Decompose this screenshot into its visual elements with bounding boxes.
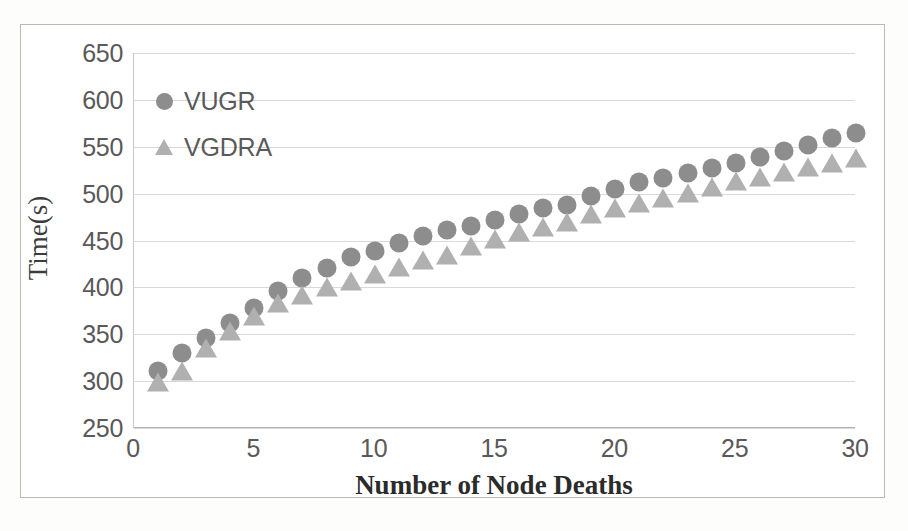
- data-point-vgdra: [195, 339, 217, 358]
- data-point-vgdra: [340, 271, 362, 290]
- gridline: [134, 334, 855, 335]
- data-point-vugr: [486, 210, 505, 229]
- x-axis-tick-labels: 051015202530: [133, 428, 855, 468]
- data-point-vugr: [847, 123, 866, 142]
- x-axis-title: Number of Node Deaths: [355, 470, 633, 501]
- data-point-vugr: [510, 205, 529, 224]
- data-point-vugr: [437, 221, 456, 240]
- x-axis-tick-label: 25: [721, 434, 748, 463]
- data-point-vugr: [630, 173, 649, 192]
- data-point-vugr: [317, 258, 336, 277]
- y-axis-tick-label: 400: [59, 273, 123, 302]
- data-point-vgdra: [677, 183, 699, 202]
- data-point-vugr: [654, 168, 673, 187]
- gridline: [134, 194, 855, 195]
- data-point-vgdra: [628, 193, 650, 212]
- data-point-vugr: [365, 241, 384, 260]
- y-axis-tick-label: 350: [59, 320, 123, 349]
- scatter-chart: 250300350400450500550600650 051015202530…: [0, 0, 908, 531]
- data-point-vgdra: [171, 361, 193, 380]
- y-axis-tick-label: 500: [59, 179, 123, 208]
- y-axis-tick-label: 550: [59, 132, 123, 161]
- gridline: [134, 53, 855, 54]
- y-axis-title: Time(s): [23, 196, 54, 281]
- data-point-vgdra: [701, 178, 723, 197]
- data-point-vgdra: [508, 223, 530, 242]
- x-axis-tick-label: 10: [360, 434, 387, 463]
- data-point-vugr: [750, 148, 769, 167]
- data-point-vugr: [822, 129, 841, 148]
- data-point-vugr: [582, 186, 601, 205]
- data-point-vugr: [798, 135, 817, 154]
- data-point-vgdra: [388, 257, 410, 276]
- gridline: [134, 381, 855, 382]
- data-point-vgdra: [652, 189, 674, 208]
- data-point-vugr: [534, 198, 553, 217]
- data-point-vgdra: [821, 153, 843, 172]
- data-point-vgdra: [243, 307, 265, 326]
- legend-item-vugr: VUGR: [152, 78, 302, 124]
- data-point-vgdra: [604, 198, 626, 217]
- data-point-vgdra: [267, 294, 289, 313]
- data-point-vgdra: [484, 229, 506, 248]
- circle-marker-icon: [152, 93, 176, 110]
- data-point-vgdra: [364, 265, 386, 284]
- data-point-vgdra: [797, 158, 819, 177]
- x-axis-tick-label: 15: [480, 434, 507, 463]
- x-axis-tick-label: 5: [247, 434, 261, 463]
- data-point-vugr: [173, 344, 192, 363]
- data-point-vgdra: [773, 163, 795, 182]
- data-point-vgdra: [316, 278, 338, 297]
- data-point-vgdra: [580, 205, 602, 224]
- y-axis-tick-label: 650: [59, 39, 123, 68]
- data-point-vgdra: [412, 251, 434, 270]
- data-point-vgdra: [219, 322, 241, 341]
- data-point-vugr: [702, 159, 721, 178]
- data-point-vugr: [774, 141, 793, 160]
- data-point-vgdra: [436, 245, 458, 264]
- x-axis-tick-label: 30: [841, 434, 868, 463]
- triangle-marker-icon: [152, 139, 176, 155]
- data-point-vugr: [678, 164, 697, 183]
- y-axis-tick-label: 300: [59, 367, 123, 396]
- chart-legend: VUGRVGDRA: [152, 78, 302, 170]
- data-point-vgdra: [460, 237, 482, 256]
- data-point-vgdra: [845, 148, 867, 167]
- x-axis-tick-label: 20: [601, 434, 628, 463]
- data-point-vugr: [389, 234, 408, 253]
- data-point-vgdra: [749, 167, 771, 186]
- y-axis-tick-label: 450: [59, 226, 123, 255]
- data-point-vgdra: [532, 218, 554, 237]
- data-point-vgdra: [725, 172, 747, 191]
- gridline: [134, 287, 855, 288]
- data-point-vugr: [413, 226, 432, 245]
- data-point-vugr: [461, 216, 480, 235]
- y-axis-tick-label: 250: [59, 414, 123, 443]
- data-point-vgdra: [147, 373, 169, 392]
- x-axis-tick-label: 0: [126, 434, 140, 463]
- y-axis-tick-label: 600: [59, 85, 123, 114]
- legend-label: VGDRA: [184, 133, 272, 162]
- data-point-vugr: [341, 248, 360, 267]
- data-point-vgdra: [291, 285, 313, 304]
- legend-label: VUGR: [184, 87, 255, 116]
- data-point-vugr: [606, 179, 625, 198]
- legend-item-vgdra: VGDRA: [152, 124, 302, 170]
- data-point-vugr: [726, 153, 745, 172]
- data-point-vgdra: [556, 212, 578, 231]
